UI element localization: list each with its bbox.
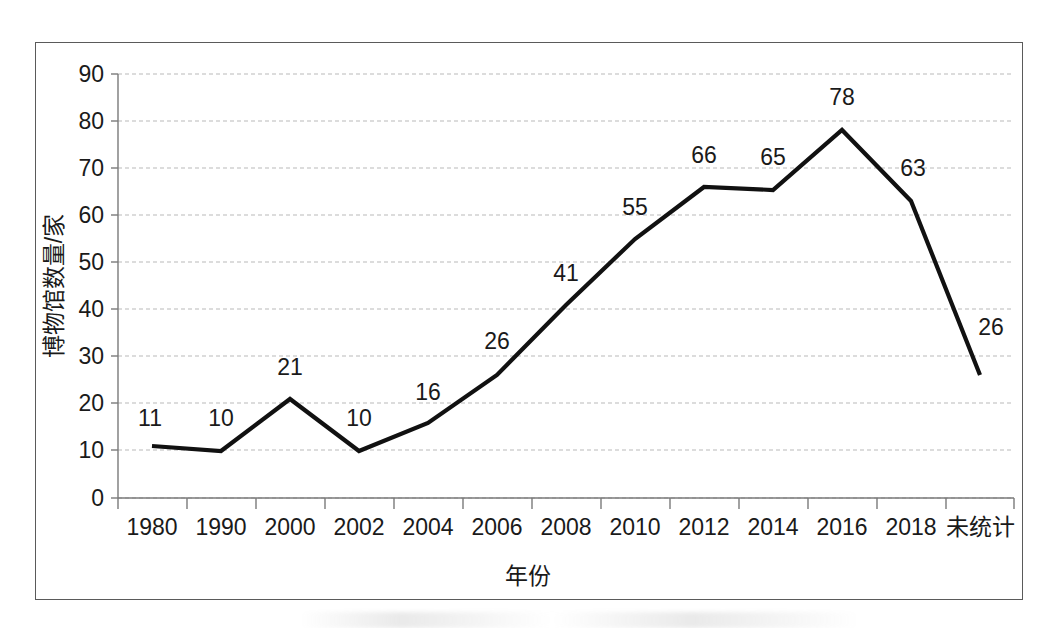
data-label-9: 65 xyxy=(760,144,786,170)
y-axis-title: 博物馆数量/家 xyxy=(41,214,67,358)
x-tick-label-10: 2016 xyxy=(816,514,867,540)
data-labels: 11 10 21 10 16 26 41 55 66 65 78 63 26 xyxy=(138,84,1004,431)
x-axis-tick-labels: 1980 1990 2000 2002 2004 2006 2008 2010 … xyxy=(126,514,1014,540)
y-tick-label-90: 90 xyxy=(78,61,104,87)
y-axis-tick-labels: 90 80 70 60 50 40 30 20 10 0 xyxy=(78,61,104,511)
y-tick-label-30: 30 xyxy=(78,343,104,369)
y-tick-label-20: 20 xyxy=(78,390,104,416)
data-label-12: 26 xyxy=(978,314,1004,340)
data-label-10: 78 xyxy=(829,84,855,110)
chart-figure-frame: 90 80 70 60 50 40 30 20 10 0 博物馆数量/家 xyxy=(35,42,1023,600)
y-tick-label-0: 0 xyxy=(91,485,104,511)
y-tick-label-40: 40 xyxy=(78,296,104,322)
x-tick-label-4: 2004 xyxy=(402,514,453,540)
x-tick-label-0: 1980 xyxy=(126,514,177,540)
data-label-5: 26 xyxy=(484,328,510,354)
page-bottom-scan-artifact xyxy=(300,612,860,628)
data-label-0: 11 xyxy=(138,405,162,431)
gridlines xyxy=(118,74,1014,498)
x-tick-label-9: 2014 xyxy=(747,514,798,540)
x-tick-label-2: 2000 xyxy=(264,514,315,540)
data-label-3: 10 xyxy=(346,405,372,431)
x-tick-label-7: 2010 xyxy=(609,514,660,540)
y-tick-label-60: 60 xyxy=(78,202,104,228)
data-label-8: 66 xyxy=(691,142,717,168)
x-tick-label-12: 未统计 xyxy=(946,514,1015,540)
y-tick-label-50: 50 xyxy=(78,249,104,275)
x-tick-label-3: 2002 xyxy=(333,514,384,540)
data-label-4: 16 xyxy=(415,379,441,405)
x-tick-label-8: 2012 xyxy=(678,514,729,540)
x-tick-label-1: 1990 xyxy=(195,514,246,540)
x-tick-label-5: 2006 xyxy=(471,514,522,540)
page-root: 90 80 70 60 50 40 30 20 10 0 博物馆数量/家 xyxy=(0,0,1052,628)
data-label-11: 63 xyxy=(900,155,926,181)
y-axis-ticks xyxy=(111,74,118,498)
x-axis-title: 年份 xyxy=(505,563,551,589)
data-label-7: 55 xyxy=(622,194,648,220)
data-label-6: 41 xyxy=(553,260,579,286)
data-label-1: 10 xyxy=(208,405,234,431)
line-chart: 90 80 70 60 50 40 30 20 10 0 博物馆数量/家 xyxy=(36,43,1024,601)
y-tick-label-10: 10 xyxy=(78,437,104,463)
y-tick-label-70: 70 xyxy=(78,155,104,181)
x-tick-label-11: 2018 xyxy=(885,514,936,540)
x-tick-label-6: 2008 xyxy=(540,514,591,540)
x-axis-ticks xyxy=(118,498,1014,509)
y-tick-label-80: 80 xyxy=(78,108,104,134)
data-label-2: 21 xyxy=(277,354,303,380)
